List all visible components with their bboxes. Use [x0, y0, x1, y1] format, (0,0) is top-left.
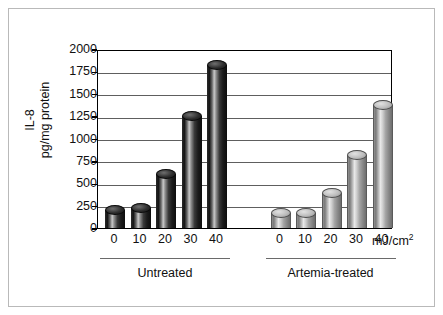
y-axis-tick-label: 750: [53, 154, 97, 168]
bar-body: [322, 193, 342, 228]
bar-body: [105, 210, 125, 228]
bar: [156, 169, 176, 228]
y-axis-tick-label: 0: [53, 221, 97, 235]
bar-top-cap: [207, 60, 227, 70]
gridline: [98, 185, 391, 186]
bar-body: [156, 174, 176, 228]
group-rule: [266, 258, 396, 259]
y-axis-tick-label: 1250: [53, 109, 97, 123]
x-axis-tick-label: 0: [111, 232, 118, 246]
x-axis-tick-label: 0: [276, 232, 283, 246]
bar-top-cap: [296, 208, 316, 218]
bar-body: [182, 116, 202, 228]
gridline: [98, 207, 391, 208]
bar-top-cap: [156, 169, 176, 179]
x-axis-tick-label: 20: [324, 232, 338, 246]
x-axis-tick-label: 10: [133, 232, 147, 246]
y-axis-tick-label: 1750: [53, 64, 97, 78]
bar: [296, 208, 316, 228]
x-axis-unit-text: mJ/cm: [372, 234, 409, 248]
group-label: Artemia-treated: [287, 266, 373, 280]
bar: [105, 205, 125, 228]
group-label: Untreated: [138, 266, 193, 280]
x-axis-tick-labels: 010203040010203040: [97, 232, 392, 250]
bar-body: [296, 213, 316, 228]
bar-top-cap: [182, 111, 202, 121]
gridline: [98, 95, 391, 96]
group-rule: [100, 258, 230, 259]
gridline: [98, 162, 391, 163]
x-axis-tick-label: 30: [184, 232, 198, 246]
bar-body: [347, 155, 367, 228]
plot-area-wrapper: [97, 50, 392, 229]
bar-body: [207, 65, 227, 228]
bar-body: [131, 208, 151, 228]
chart-figure: IL-8 pg/mg protein 025050075010001250150…: [0, 0, 443, 315]
gridline: [98, 140, 391, 141]
y-axis-tick-label: 1000: [53, 132, 97, 146]
x-axis-unit-exponent: 2: [409, 232, 414, 242]
plot-area: [97, 50, 392, 229]
x-axis-tick-label: 40: [209, 232, 223, 246]
x-axis-tick-label: 30: [349, 232, 363, 246]
bar: [373, 100, 393, 228]
y-axis-tick-label: 2000: [53, 42, 97, 56]
bar: [347, 150, 367, 228]
bar-top-cap: [373, 100, 393, 110]
y-axis-tick-label: 500: [53, 176, 97, 190]
bar: [271, 208, 291, 228]
bar: [207, 60, 227, 228]
y-axis-tick-label: 1500: [53, 87, 97, 101]
y-axis-tick-labels: 025050075010001250150017502000: [44, 50, 97, 229]
bar-top-cap: [271, 208, 291, 218]
y-axis-tick-label: 250: [53, 199, 97, 213]
x-axis-tick-label: 10: [298, 232, 312, 246]
bar-body: [373, 105, 393, 228]
bar-top-cap: [322, 188, 342, 198]
y-axis-title-line1: IL-8: [23, 109, 38, 131]
bar: [182, 111, 202, 228]
bar-body: [271, 213, 291, 228]
x-axis-unit-label: mJ/cm2: [372, 232, 414, 248]
gridline: [98, 73, 391, 74]
x-axis-tick-label: 20: [158, 232, 172, 246]
bar-top-cap: [347, 150, 367, 160]
gridline: [98, 118, 391, 119]
